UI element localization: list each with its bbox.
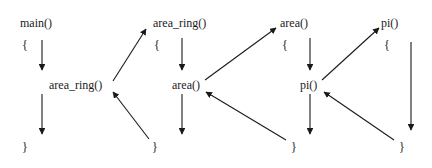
call-arrow-area-ring-to-area [205, 28, 276, 80]
call-arrow-main-to-area-ring [113, 29, 146, 81]
return-arrow-pi-to-area [324, 92, 394, 140]
return-arrow-area-to-area-ring [206, 92, 286, 140]
arrows-layer [0, 0, 432, 168]
return-arrow-area-ring-to-main [113, 92, 149, 139]
call-arrow-area-to-pi [322, 28, 379, 80]
